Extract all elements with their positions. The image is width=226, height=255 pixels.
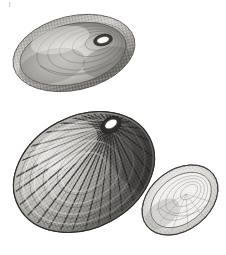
illustration-plate (0, 0, 226, 255)
shell-plate-svg (0, 0, 226, 255)
corner-speck (9, 2, 10, 7)
